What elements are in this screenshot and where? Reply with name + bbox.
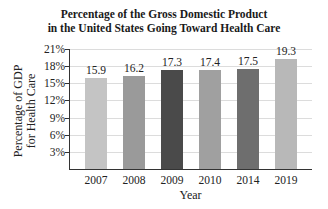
y-tick-label: 6%	[29, 129, 65, 141]
y-tick	[65, 83, 69, 84]
bar-2019	[275, 59, 297, 169]
bar-2014	[237, 69, 259, 169]
bar-2008	[123, 76, 145, 169]
bar-value-label: 17.5	[228, 55, 268, 67]
x-tick-label: 2007	[76, 174, 116, 186]
chart-title-line-1: Percentage of the Gross Domestic Product	[0, 7, 328, 21]
x-axis-label: Year	[69, 188, 312, 203]
y-tick	[65, 49, 69, 50]
y-tick-label: 15%	[29, 77, 65, 89]
bar-2007	[85, 78, 107, 169]
x-axis-line	[69, 169, 312, 170]
y-tick-label: 21%	[29, 43, 65, 55]
x-tick-label: 2010	[190, 174, 230, 186]
y-tick-label: 12%	[29, 94, 65, 106]
y-tick	[65, 118, 69, 119]
y-tick	[65, 152, 69, 153]
y-tick	[65, 100, 69, 101]
bar-value-label: 16.2	[114, 62, 154, 74]
chart-title: Percentage of the Gross Domestic Product…	[0, 7, 328, 35]
y-tick-label: 9%	[29, 112, 65, 124]
bar-value-label: 17.3	[152, 56, 192, 68]
chart-title-line-2: in the United States Going Toward Health…	[0, 21, 328, 35]
y-tick	[65, 135, 69, 136]
y-tick-label: 3%	[29, 146, 65, 158]
y-tick	[65, 66, 69, 67]
y-tick-label: 18%	[29, 60, 65, 72]
bar-2009	[161, 70, 183, 169]
x-tick-label: 2019	[266, 174, 306, 186]
x-tick-label: 2014	[228, 174, 268, 186]
x-tick-label: 2008	[114, 174, 154, 186]
bar-value-label: 19.3	[266, 45, 306, 57]
bar-2010	[199, 70, 221, 169]
bar-value-label: 17.4	[190, 56, 230, 68]
plot-area: 3%6%9%12%15%18%21%15.9200716.2200817.320…	[69, 49, 312, 170]
bar-value-label: 15.9	[76, 64, 116, 76]
x-tick-label: 2009	[152, 174, 192, 186]
